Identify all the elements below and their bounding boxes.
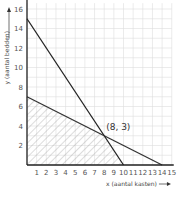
svg-text:12: 12: [138, 169, 147, 177]
svg-text:2: 2: [44, 169, 48, 177]
svg-text:5: 5: [73, 169, 77, 177]
svg-text:6: 6: [19, 103, 24, 111]
svg-text:8: 8: [19, 84, 23, 92]
y-axis-label: y (aantal bedden): [3, 31, 11, 85]
svg-text:8: 8: [102, 169, 106, 177]
svg-text:4: 4: [19, 123, 24, 131]
x-axis-label: x (aantal kasten): [106, 180, 157, 187]
svg-text:3: 3: [54, 169, 58, 177]
svg-text:14: 14: [14, 25, 23, 33]
svg-text:12: 12: [14, 45, 23, 53]
svg-text:1: 1: [34, 169, 38, 177]
svg-text:16: 16: [14, 6, 23, 14]
svg-text:7: 7: [92, 169, 96, 177]
svg-text:14: 14: [158, 169, 167, 177]
svg-text:6: 6: [83, 169, 88, 177]
svg-text:11: 11: [129, 169, 138, 177]
svg-text:10: 10: [14, 64, 23, 72]
svg-text:4: 4: [63, 169, 68, 177]
svg-text:10: 10: [119, 169, 128, 177]
intersection-label: (8, 3): [106, 122, 130, 132]
x-tick-labels: 123456789101112131415: [34, 169, 176, 177]
svg-text:2: 2: [19, 142, 23, 150]
svg-text:15: 15: [167, 169, 176, 177]
chart: 123456789101112131415 246810121416 (8, 3…: [0, 0, 189, 201]
svg-text:13: 13: [148, 169, 157, 177]
svg-text:9: 9: [112, 169, 116, 177]
y-tick-labels: 246810121416: [14, 6, 23, 151]
